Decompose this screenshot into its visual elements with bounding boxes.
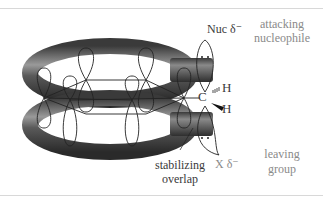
lower-stub — [170, 112, 213, 136]
stabilizing-label: stabilizing — [150, 158, 210, 172]
group-label: group — [258, 162, 306, 176]
leaving-atom-label: X δ⁻ — [215, 157, 239, 171]
nucleophile-label: Nuc δ⁻ — [207, 22, 242, 36]
nucleophile-word-label: nucleophile — [250, 31, 314, 45]
attacking-label: attacking — [252, 17, 312, 31]
h-bottom-label: H — [222, 102, 231, 116]
overlap-label: overlap — [150, 172, 210, 186]
leaving-label: leaving — [258, 147, 306, 161]
upper-stub — [170, 58, 213, 82]
h-top-label: H — [222, 81, 231, 95]
carbon-label: C — [198, 90, 207, 104]
